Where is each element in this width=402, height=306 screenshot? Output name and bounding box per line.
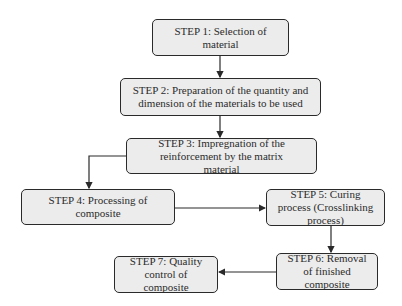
step-6-box: STEP 6: Removal of finished composite bbox=[276, 253, 378, 290]
arrow-step3-to-step4 bbox=[89, 156, 126, 188]
step-5-label: STEP 5: Curing process (Crosslinking pro… bbox=[275, 188, 376, 227]
step-5-box: STEP 5: Curing process (Crosslinking pro… bbox=[266, 189, 385, 226]
step-3-box: STEP 3: Impregnation of the reinforcemen… bbox=[126, 138, 317, 174]
step-7-box: STEP 7: Quality control of composite bbox=[114, 256, 218, 293]
step-4-label: STEP 4: Processing of composite bbox=[26, 194, 170, 220]
step-1-label: STEP 1: Selection of material bbox=[157, 25, 284, 51]
flowchart-canvas: STEP 1: Selection of material STEP 2: Pr… bbox=[0, 0, 402, 306]
step-7-label: STEP 7: Quality control of composite bbox=[125, 255, 207, 294]
step-4-box: STEP 4: Processing of composite bbox=[21, 189, 175, 225]
step-6-label: STEP 6: Removal of finished composite bbox=[283, 252, 371, 291]
step-2-box: STEP 2: Preparation of the quantity and … bbox=[120, 78, 321, 116]
step-1-box: STEP 1: Selection of material bbox=[152, 19, 289, 56]
step-2-label: STEP 2: Preparation of the quantity and … bbox=[125, 84, 316, 110]
step-3-label: STEP 3: Impregnation of the reinforcemen… bbox=[149, 137, 294, 176]
